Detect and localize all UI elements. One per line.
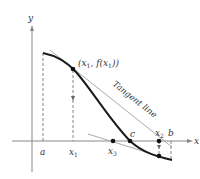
arrow-down-x2-icon (157, 145, 161, 149)
point-x1-fx1 (71, 67, 76, 72)
point-x3 (111, 139, 116, 144)
newton-method-diagram: y x (x1, f(x1)) Tangent line a x1 x3 c x… (0, 0, 200, 179)
point-fx2 (157, 154, 162, 159)
point-x2 (157, 139, 162, 144)
x-axis-label: x (194, 136, 199, 146)
y-axis-label: y (27, 13, 34, 23)
tangent-line-label: Tangent line (111, 79, 159, 120)
label-x2: x2 (155, 128, 164, 139)
label-c: c (130, 129, 135, 139)
label-x1: x1 (69, 147, 78, 158)
label-x3: x3 (108, 146, 117, 157)
point-label-x1-fx1: (x1, f(x1)) (78, 58, 119, 69)
arrow-down-x1-icon (71, 96, 75, 101)
x-axis-arrow-icon (187, 139, 193, 143)
point-c (128, 139, 133, 144)
y-axis-arrow-icon (30, 25, 34, 31)
label-b: b (168, 128, 174, 138)
label-a: a (40, 147, 45, 157)
